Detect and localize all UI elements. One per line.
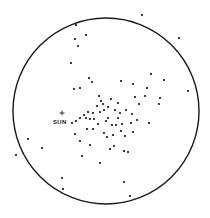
star-point [178, 37, 180, 39]
star-point [136, 119, 138, 121]
star-point [62, 188, 64, 190]
star-point [120, 130, 122, 132]
star-point [73, 88, 75, 90]
sky-boundary-circle [13, 18, 199, 204]
star-point [70, 62, 72, 64]
star-point [87, 111, 89, 113]
sun-marker: SUN [53, 111, 67, 126]
star-point [138, 103, 140, 105]
star-point [131, 113, 133, 115]
star-point [115, 124, 117, 126]
star-point [74, 38, 76, 40]
star-point [163, 79, 165, 81]
star-point [86, 128, 88, 130]
star-point [88, 77, 90, 79]
star-point [91, 81, 93, 83]
star-point [71, 122, 73, 124]
star-point [146, 87, 148, 89]
star-point [89, 144, 91, 146]
star-point [148, 122, 150, 124]
star-point [83, 114, 85, 116]
star-point [109, 148, 111, 150]
star-point [41, 147, 43, 149]
star-point [123, 150, 125, 152]
star-point [114, 109, 116, 111]
star-point [124, 135, 126, 137]
star-point [99, 111, 101, 113]
star-point [132, 83, 134, 85]
star-point [110, 98, 112, 100]
star-point [132, 131, 134, 133]
star-point [98, 95, 100, 97]
star-point [111, 124, 113, 126]
star-point [130, 122, 132, 124]
star-point [107, 117, 109, 119]
star-point [93, 118, 95, 120]
star-point [77, 45, 79, 47]
star-point [96, 105, 98, 107]
star-point [187, 90, 189, 92]
star-point [75, 120, 77, 122]
star-point [100, 100, 102, 102]
star-point [125, 109, 127, 111]
star-point [102, 103, 104, 105]
star-point [79, 140, 81, 142]
sun-plus-icon [60, 111, 65, 116]
star-point [92, 128, 94, 130]
star-point [107, 106, 109, 108]
star-point [106, 136, 108, 138]
star-point [120, 80, 122, 82]
star-point [112, 134, 114, 136]
star-point [119, 112, 121, 114]
star-point [159, 97, 161, 99]
star-point [85, 117, 87, 119]
star-point [105, 120, 107, 122]
star-point [89, 118, 91, 120]
star-point [127, 151, 129, 153]
star-point [129, 195, 131, 197]
star-points-group [15, 14, 189, 197]
star-distribution-diagram: SUN [0, 0, 210, 218]
star-point [150, 73, 152, 75]
star-point [79, 87, 81, 89]
star-point [85, 34, 87, 36]
star-point [81, 155, 83, 157]
star-point [117, 102, 119, 104]
star-point [144, 95, 146, 97]
star-point [141, 14, 143, 16]
star-point [134, 96, 136, 98]
star-point [61, 177, 63, 179]
sun-label: SUN [53, 119, 67, 125]
star-point [113, 145, 115, 147]
star-point [75, 24, 77, 26]
star-point [97, 123, 99, 125]
star-point [103, 109, 105, 111]
star-point [158, 103, 160, 105]
star-point [15, 154, 17, 156]
star-point [74, 133, 76, 135]
star-point [27, 138, 29, 140]
star-point [92, 112, 94, 114]
star-point [121, 123, 123, 125]
star-point [103, 132, 105, 134]
star-point [79, 117, 81, 119]
star-point [99, 162, 101, 164]
star-point [123, 181, 125, 183]
star-point [117, 117, 119, 119]
